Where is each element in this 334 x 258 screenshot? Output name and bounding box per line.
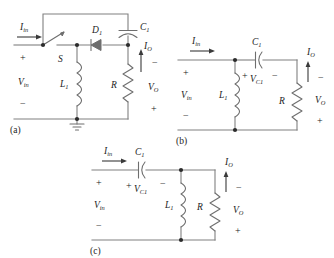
node-dot <box>233 128 237 132</box>
label-resistor: R <box>278 96 285 106</box>
label-vin: Vin <box>18 77 29 88</box>
label-vc1-plus: + <box>242 70 248 81</box>
circuit-figure: Iin + Vin − S L1 D1 C1 R IO − VO + (a) <box>0 0 334 258</box>
current-arrow-iin-head-icon <box>209 49 215 54</box>
label-resistor: R <box>110 80 117 90</box>
current-arrow-iin-head-icon <box>121 159 127 164</box>
current-arrow-io-head-icon <box>139 49 144 55</box>
diode-icon <box>91 40 101 51</box>
label-vo-minus: − <box>236 182 242 193</box>
label-vc1: VC1 <box>134 184 147 195</box>
label-inductor: L1 <box>59 79 69 90</box>
label-iin: Iin <box>19 22 28 33</box>
label-vin-plus: + <box>20 52 26 63</box>
current-arrow-io-head-icon <box>306 61 311 67</box>
label-vin-plus: + <box>96 177 102 188</box>
inductor-icon <box>235 73 240 117</box>
label-vo-plus: + <box>151 103 157 114</box>
label-iin: Iin <box>103 146 112 157</box>
label-inductor: L1 <box>218 90 228 101</box>
node-dot <box>41 43 45 47</box>
label-vin-minus: − <box>183 110 189 121</box>
label-resistor: R <box>196 202 203 212</box>
label-vc1: VC1 <box>250 74 263 85</box>
node-dot <box>126 43 130 47</box>
node-dot <box>75 117 79 121</box>
label-io: IO <box>143 41 152 52</box>
node-dot <box>179 238 183 242</box>
resistor-icon <box>210 193 220 231</box>
label-vo-plus: + <box>317 115 323 126</box>
circuit-b: Iin + Vin − L1 C1 + VC1 − R IO − VO + (b… <box>176 36 326 147</box>
label-vin-minus: − <box>96 220 102 231</box>
current-arrow-iin-head-icon <box>36 35 42 40</box>
label-vc1-minus: − <box>272 70 278 81</box>
label-vin: Vin <box>181 90 192 101</box>
label-vo-minus: − <box>152 57 158 68</box>
label-inductor: L1 <box>164 200 174 211</box>
label-vo: VO <box>233 205 244 216</box>
label-vin: Vin <box>94 200 105 211</box>
circuit-a: Iin + Vin − S L1 D1 C1 R IO − VO + (a) <box>10 14 159 136</box>
label-vo-plus: + <box>235 225 241 236</box>
node-dot <box>233 58 237 62</box>
label-capacitor: C1 <box>252 37 262 48</box>
resistor-icon <box>123 64 133 102</box>
label-vo: VO <box>315 95 326 106</box>
panel-label-b: (b) <box>176 136 187 147</box>
inductor-icon <box>77 62 82 106</box>
resistor-icon <box>292 83 302 121</box>
label-diode: D1 <box>91 25 102 36</box>
node-dot <box>179 168 183 172</box>
current-arrow-io-head-icon <box>224 171 229 177</box>
wire-a-top-feedback <box>43 14 128 45</box>
circuit-c: Iin + Vin − C1 + VC1 − L1 R IO − VO + (c… <box>90 146 244 257</box>
label-vc1-minus: − <box>160 178 166 189</box>
panel-label-c: (c) <box>90 246 101 257</box>
switch-blade-tip-icon <box>61 32 65 36</box>
label-vin-plus: + <box>183 67 189 78</box>
panel-label-a: (a) <box>10 125 21 136</box>
label-io: IO <box>224 157 233 168</box>
label-vo-minus: − <box>318 72 324 83</box>
label-vo: VO <box>148 82 159 93</box>
label-capacitor: C1 <box>135 147 145 158</box>
label-io: IO <box>306 47 315 58</box>
inductor-icon <box>181 183 186 227</box>
label-vc1-plus: + <box>126 180 132 191</box>
label-switch: S <box>58 54 63 64</box>
node-dot <box>75 43 79 47</box>
label-capacitor: C1 <box>140 22 150 33</box>
capacitor-plate-right-icon <box>142 162 145 178</box>
label-iin: Iin <box>191 36 200 47</box>
label-vin-minus: − <box>20 98 26 109</box>
capacitor-plate-right-icon <box>259 52 262 68</box>
